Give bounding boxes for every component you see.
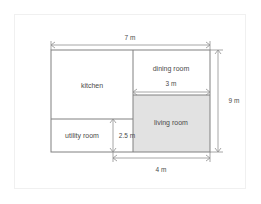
dimension-overall-width-label: 7 m	[125, 34, 136, 41]
floor-plan-svg: kitchen dining room living room utility …	[0, 0, 261, 204]
dining-room-label: dining room	[153, 65, 190, 73]
utility-room-label: utility room	[65, 132, 99, 140]
dimension-utility-height-label: 2.5 m	[119, 132, 135, 139]
dimension-bottom-width-label: 4 m	[156, 166, 167, 173]
dimension-bottom-width: 4 m	[113, 152, 210, 173]
diagram-canvas: kitchen dining room living room utility …	[0, 0, 261, 204]
dimension-overall-height-label: 9 m	[229, 97, 240, 104]
dimension-living-width-label: 3 m	[166, 80, 177, 87]
living-room-label: living room	[154, 119, 188, 127]
dining-room-fill	[133, 50, 210, 95]
dimension-overall-height: 9 m	[210, 50, 239, 152]
dimension-overall-width: 7 m	[51, 34, 210, 50]
kitchen-label: kitchen	[81, 82, 103, 89]
